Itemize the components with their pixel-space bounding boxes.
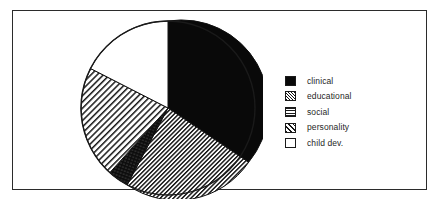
legend-label: personality [307, 123, 349, 132]
white-swatch-icon [285, 138, 296, 148]
pie-chart [73, 17, 263, 199]
legend-item-personality: personality [285, 120, 425, 136]
pie-chart-svg [73, 17, 263, 199]
figure-frame: clinical educational social personality … [12, 10, 427, 190]
legend: clinical educational social personality … [285, 73, 425, 151]
legend-label: social [307, 108, 329, 117]
legend-item-clinical: clinical [285, 73, 425, 89]
legend-item-child-dev: child dev. [285, 135, 425, 151]
legend-item-educational: educational [285, 89, 425, 105]
legend-item-social: social [285, 104, 425, 120]
figure-root: clinical educational social personality … [0, 0, 441, 208]
legend-label: educational [307, 92, 352, 101]
dense-diagonal-swatch-icon [285, 91, 296, 101]
solid-black-swatch-icon [285, 76, 296, 86]
legend-label: clinical [307, 77, 333, 86]
crosshatch-swatch-icon [285, 107, 296, 117]
legend-label: child dev. [307, 139, 343, 148]
sparse-diagonal-swatch-icon [285, 123, 296, 133]
